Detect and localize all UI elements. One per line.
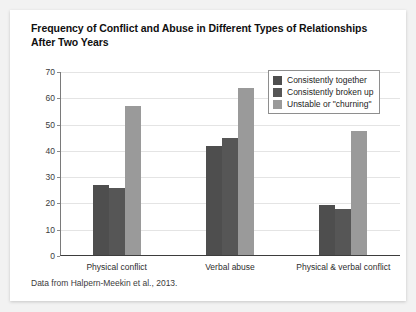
y-axis-tick-mark [57,256,60,257]
y-axis-tick-label: 50 [46,120,55,130]
legend-swatch-icon [273,76,282,85]
chart-title: Frequency of Conflict and Abuse in Diffe… [31,22,383,49]
y-axis-tick-label: 40 [46,146,55,156]
legend-item-label: Consistently broken up [287,87,373,97]
legend-item-label: Consistently together [287,75,367,85]
legend-item[interactable]: Consistently together [273,74,373,86]
y-axis-tick-label: 60 [46,93,55,103]
y-axis-tick-label: 10 [46,225,55,235]
x-axis-tick-label: Physical & verbal conflict [296,262,390,272]
y-axis-tick-label: 0 [50,251,55,261]
x-axis-tick-label: Verbal abuse [205,262,255,272]
legend-item[interactable]: Unstable or "churning" [273,98,373,110]
source-note: Data from Halpern-Meekin et al., 2013. [31,278,177,288]
legend-item[interactable]: Consistently broken up [273,86,373,98]
chart-card: Frequency of Conflict and Abuse in Diffe… [10,10,406,301]
x-axis-tick-label: Physical conflict [86,262,146,272]
legend-swatch-icon [273,88,282,97]
legend-item-label: Unstable or "churning" [287,99,371,109]
y-axis-tick-label: 70 [46,67,55,77]
chart-legend: Consistently togetherConsistently broken… [268,70,380,114]
y-axis-tick-label: 20 [46,198,55,208]
y-axis-tick-label: 30 [46,172,55,182]
legend-swatch-icon [273,100,282,109]
